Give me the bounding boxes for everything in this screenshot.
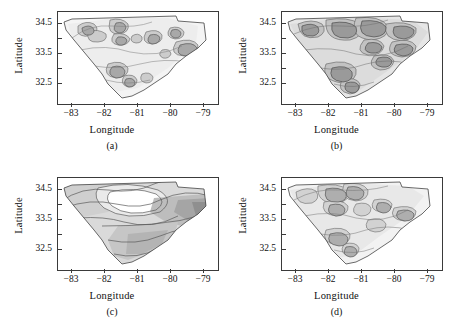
panel-a-xlabel: Longitude — [0, 124, 224, 135]
xtick-label: −82 — [97, 274, 112, 284]
figure-grid: Latitude 34.5 33.5 32.5 — [0, 0, 449, 329]
panel-a: Latitude 34.5 33.5 32.5 — [0, 0, 224, 160]
panel-b-caption: (b) — [224, 140, 449, 151]
xtick-label: −80 — [387, 108, 402, 118]
ytick-label: 32.5 — [259, 77, 276, 87]
panel-b-xlabel: Longitude — [224, 124, 449, 135]
panel-c-xtick-labels: −83 −82 −81 −80 −79 — [57, 274, 217, 286]
xtick-label: −80 — [387, 274, 402, 284]
panel-b-ytick-labels: 34.5 33.5 32.5 — [244, 0, 276, 95]
panel-c-caption: (c) — [0, 306, 224, 317]
panel-d: Latitude 34.5 33.5 32.5 — [224, 160, 449, 329]
ytick-label: 34.5 — [35, 17, 52, 27]
xtick-label: −81 — [130, 274, 145, 284]
xtick-label: −80 — [163, 274, 178, 284]
xtick-label: −80 — [163, 108, 178, 118]
ytick-label: 33.5 — [259, 47, 276, 57]
ytick-label: 34.5 — [259, 183, 276, 193]
panel-b-plot — [281, 11, 443, 105]
panel-b: Latitude 34.5 33.5 32.5 — [224, 0, 449, 160]
xtick-label: −79 — [420, 108, 435, 118]
panel-d-ytickmarks — [282, 178, 442, 270]
xtick-label: −82 — [321, 108, 336, 118]
xtick-label: −81 — [354, 108, 369, 118]
xtick-label: −82 — [321, 274, 336, 284]
panel-d-ytick-labels: 34.5 33.5 32.5 — [244, 160, 276, 255]
ytick-label: 33.5 — [35, 47, 52, 57]
xtick-label: −81 — [354, 274, 369, 284]
ytick-label: 34.5 — [259, 17, 276, 27]
xtick-label: −81 — [130, 108, 145, 118]
ytick-label: 32.5 — [259, 243, 276, 253]
xtick-label: −83 — [288, 108, 303, 118]
panel-a-ytick-labels: 34.5 33.5 32.5 — [20, 0, 52, 95]
panel-c: Latitude 34.5 33.5 32.5 — [0, 160, 224, 329]
ytick-label: 33.5 — [259, 213, 276, 223]
panel-d-xtick-labels: −83 −82 −81 −80 −79 — [281, 274, 441, 286]
panel-c-xlabel: Longitude — [0, 290, 224, 301]
panel-b-xtick-labels: −83 −82 −81 −80 −79 — [281, 108, 441, 120]
xtick-label: −82 — [97, 108, 112, 118]
ytick-label: 32.5 — [35, 243, 52, 253]
ytick-label: 33.5 — [35, 213, 52, 223]
panel-d-plot — [281, 177, 443, 271]
panel-d-caption: (d) — [224, 306, 449, 317]
panel-a-xtick-labels: −83 −82 −81 −80 −79 — [57, 108, 217, 120]
xtick-label: −83 — [288, 274, 303, 284]
xtick-label: −83 — [64, 108, 79, 118]
xtick-label: −79 — [420, 274, 435, 284]
ytick-label: 32.5 — [35, 77, 52, 87]
panel-a-caption: (a) — [0, 140, 224, 151]
panel-b-ytickmarks — [282, 12, 442, 104]
panel-c-ytick-labels: 34.5 33.5 32.5 — [20, 160, 52, 255]
xtick-label: −79 — [196, 274, 211, 284]
xtick-label: −79 — [196, 108, 211, 118]
ytick-label: 34.5 — [35, 183, 52, 193]
xtick-label: −83 — [64, 274, 79, 284]
panel-d-xlabel: Longitude — [224, 290, 449, 301]
